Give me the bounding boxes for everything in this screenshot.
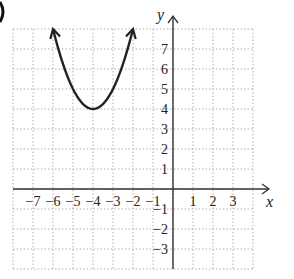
- grid: [13, 29, 253, 269]
- x-tick-label: 2: [210, 194, 217, 209]
- y-tick-label: 5: [161, 82, 168, 97]
- y-tick-label: 2: [161, 142, 168, 157]
- y-tick-label: 1: [161, 162, 168, 177]
- y-tick-label: −2: [153, 222, 168, 237]
- y-tick-label: 4: [161, 102, 168, 117]
- x-tick-label: −6: [46, 194, 61, 209]
- x-tick-label: −3: [106, 194, 121, 209]
- x-tick-label: 1: [190, 194, 197, 209]
- coordinate-graph: −7−6−5−4−3−2−11237654321−1−2−3 x y: [0, 0, 294, 279]
- y-tick-label: −3: [153, 242, 168, 257]
- x-tick-label: −2: [126, 194, 141, 209]
- cropped-label-glyph: [0, 2, 3, 22]
- axes: [13, 16, 269, 269]
- y-tick-label: 3: [161, 122, 168, 137]
- y-tick-label: 7: [161, 42, 168, 57]
- y-tick-label: −1: [153, 202, 168, 217]
- x-tick-label: −4: [86, 194, 101, 209]
- x-tick-label: −5: [66, 194, 81, 209]
- tick-labels: −7−6−5−4−3−2−11237654321−1−2−3: [26, 42, 237, 257]
- x-axis-label: x: [265, 193, 273, 210]
- y-axis-label: y: [155, 6, 165, 24]
- x-tick-label: 3: [230, 194, 237, 209]
- x-tick-label: −7: [26, 194, 41, 209]
- y-tick-label: 6: [161, 62, 168, 77]
